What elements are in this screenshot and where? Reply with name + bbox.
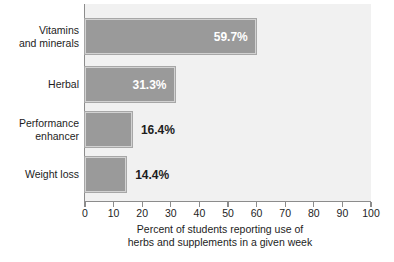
x-axis-caption-line1: Percent of students reporting use of <box>60 223 380 236</box>
bar <box>85 157 126 192</box>
bar-chart-figure: 0102030405060708090100 Vitaminsand miner… <box>0 0 394 262</box>
x-tick-label: 100 <box>356 207 386 219</box>
bar: 59.7% <box>85 19 256 54</box>
x-tick-label: 60 <box>242 207 272 219</box>
category-label-line: and minerals <box>0 37 79 50</box>
category-label-line: Herbal <box>0 78 79 91</box>
category-label-line: Performance <box>0 117 79 130</box>
x-tick-label: 70 <box>270 207 300 219</box>
x-tick-label: 40 <box>184 207 214 219</box>
bar-value-label: 31.3% <box>132 78 166 92</box>
x-tick-label: 90 <box>327 207 357 219</box>
category-label-line: Weight loss <box>0 168 79 181</box>
x-tick-label: 10 <box>99 207 129 219</box>
category-label-line: enhancer <box>0 130 79 143</box>
x-tick-label: 50 <box>213 207 243 219</box>
x-tick-label: 0 <box>70 207 100 219</box>
x-tick-label: 20 <box>127 207 157 219</box>
bar-value-label: 16.4% <box>141 123 175 137</box>
x-axis-caption-line2: herbs and supplements in a given week <box>60 236 380 249</box>
chart-title <box>0 0 394 3</box>
bar <box>85 112 132 147</box>
category-label: Performanceenhancer <box>0 117 79 142</box>
bar-value-label: 14.4% <box>135 168 169 182</box>
category-label: Vitaminsand minerals <box>0 24 79 49</box>
x-axis-caption: Percent of students reporting use of her… <box>60 223 380 249</box>
x-tick-label: 30 <box>156 207 186 219</box>
category-label: Herbal <box>0 78 79 91</box>
category-label-line: Vitamins <box>0 24 79 37</box>
bar-value-label: 59.7% <box>214 30 248 44</box>
category-label: Weight loss <box>0 168 79 181</box>
bar: 31.3% <box>85 67 175 102</box>
x-tick-label: 80 <box>299 207 329 219</box>
